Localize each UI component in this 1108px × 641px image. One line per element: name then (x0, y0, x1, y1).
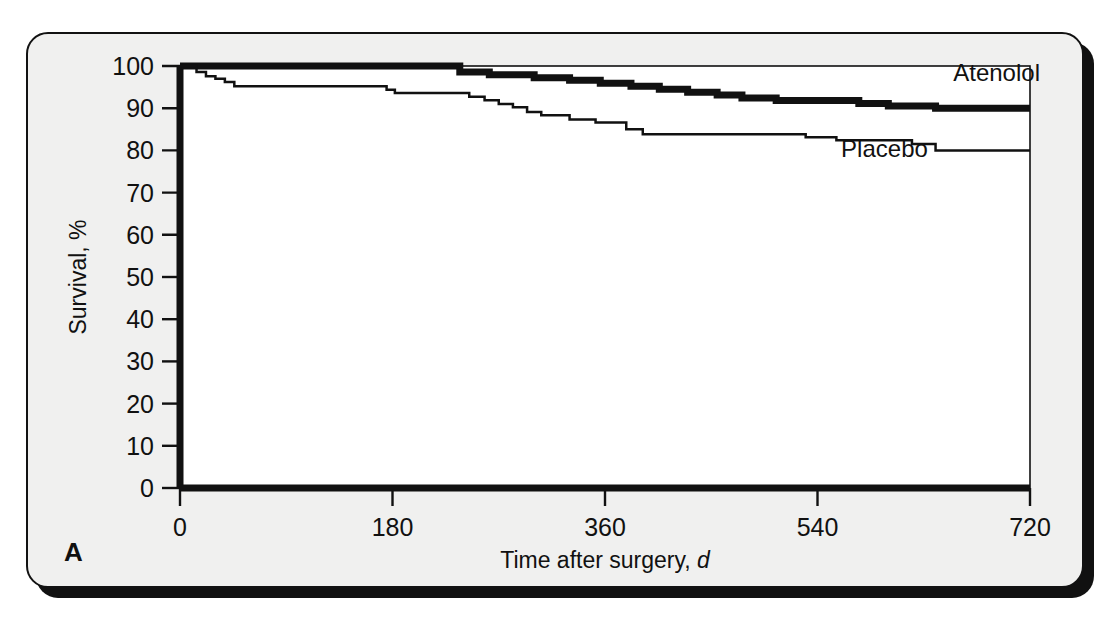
y-tick-label: 90 (126, 94, 154, 122)
y-tick-label: 30 (126, 347, 154, 375)
y-tick-label: 20 (126, 390, 154, 418)
y-tick-label: 60 (126, 221, 154, 249)
y-axis-ticks: 0102030405060708090100 (112, 52, 180, 502)
x-axis-title: Time after surgery, d (500, 547, 711, 573)
y-tick-label: 100 (112, 52, 154, 80)
x-tick-label: 540 (797, 513, 839, 541)
y-tick-label: 0 (140, 474, 154, 502)
y-tick-label: 80 (126, 136, 154, 164)
figure-root: 0102030405060708090100 0180360540720 Ate… (0, 0, 1108, 641)
series-label-atenolol: Atenolol (953, 59, 1040, 86)
series-label-placebo: Placebo (841, 135, 928, 162)
panel-letter: A (64, 537, 83, 568)
x-tick-label: 180 (372, 513, 414, 541)
y-tick-label: 50 (126, 263, 154, 291)
x-tick-label: 360 (584, 513, 626, 541)
x-axis-ticks: 0180360540720 (173, 488, 1051, 541)
y-tick-label: 40 (126, 305, 154, 333)
plot-area-background (180, 66, 1030, 488)
y-tick-label: 10 (126, 432, 154, 460)
survival-plot: 0102030405060708090100 0180360540720 Ate… (28, 34, 1084, 588)
x-tick-label: 720 (1009, 513, 1051, 541)
y-axis-title: Survival, % (65, 219, 91, 334)
figure-card: 0102030405060708090100 0180360540720 Ate… (26, 32, 1084, 588)
y-tick-label: 70 (126, 179, 154, 207)
x-tick-label: 0 (173, 513, 187, 541)
